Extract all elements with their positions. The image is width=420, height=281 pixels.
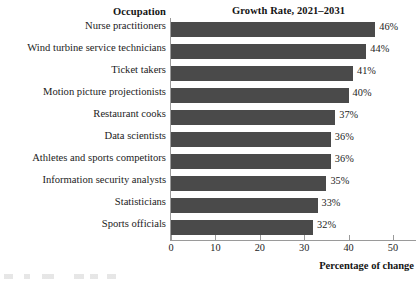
bar [171,198,318,213]
x-axis-title: Percentage of change [319,260,414,271]
y-axis-line [170,18,171,240]
bar [171,44,366,59]
chart-row: Sports officials32% [0,216,420,238]
bar [171,22,375,37]
category-label: Restaurant cooks [93,108,166,119]
bar-value-label: 35% [330,175,349,186]
bar-value-label: 37% [339,109,358,120]
bar [171,88,349,103]
category-label: Information security analysts [42,174,166,185]
x-axis-tick-label: 0 [168,242,173,253]
bar [171,220,313,235]
bar [171,176,326,191]
chart-row: Information security analysts35% [0,172,420,194]
chart-row: Nurse practitioners46% [0,18,420,40]
x-axis-tick [393,235,394,240]
category-label: Sports officials [102,218,166,229]
bar-value-label: 33% [322,197,341,208]
x-axis-tick [349,235,350,240]
x-axis-tick-label: 40 [343,242,353,253]
x-axis-line [170,240,416,241]
bar-value-label: 46% [379,21,398,32]
bar [171,132,331,147]
bar [171,154,331,169]
chart-row: Restaurant cooks37% [0,106,420,128]
x-axis-tick [260,235,261,240]
category-label: Statisticians [115,196,166,207]
bar-value-label: 32% [317,219,336,230]
bar-value-label: 36% [335,131,354,142]
x-axis-tick [304,235,305,240]
category-label: Wind turbine service technicians [27,42,166,53]
bar-value-label: 44% [370,43,389,54]
x-axis-tick-label: 20 [255,242,265,253]
category-label: Athletes and sports competitors [32,152,166,163]
x-axis-tick-label: 50 [388,242,398,253]
bar [171,110,335,125]
plot-area: Nurse practitioners46%Wind turbine servi… [0,18,420,240]
category-label: Motion picture projectionists [43,86,166,97]
x-axis-tick [215,235,216,240]
bar-value-label: 36% [335,153,354,164]
category-label: Data scientists [105,130,167,141]
chart-row: Motion picture projectionists40% [0,84,420,106]
chart-row: Ticket takers41% [0,62,420,84]
bar [171,66,353,81]
category-label: Nurse practitioners [85,20,166,31]
chart-row: Statisticians33% [0,194,420,216]
bar-value-label: 41% [357,65,376,76]
chart-row: Data scientists36% [0,128,420,150]
column-header-occupation: Occupation [113,6,166,17]
category-label: Ticket takers [111,64,166,75]
chart-row: Wind turbine service technicians44% [0,40,420,62]
page-edge-artifact [4,274,154,279]
chart-title-growth-rate: Growth Rate, 2021–2031 [232,5,345,16]
chart-row: Athletes and sports competitors36% [0,150,420,172]
bar-value-label: 40% [353,87,372,98]
x-axis-tick-label: 30 [299,242,309,253]
bar-chart-figure: Occupation Growth Rate, 2021–2031 Nurse … [0,0,420,281]
x-axis-tick-label: 10 [210,242,220,253]
x-axis-tick [171,235,172,240]
